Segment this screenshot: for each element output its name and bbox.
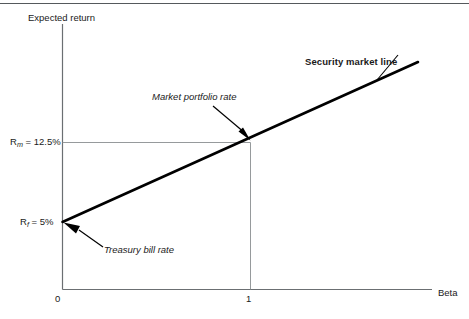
treasury-bill-arrow-head	[64, 223, 81, 234]
market-portfolio-rate-annotation: Market portfolio rate	[152, 92, 236, 102]
treasury-bill-rate-annotation: Treasury bill rate	[104, 245, 174, 255]
security-market-line-figure: Expected return Beta 0 1 Rm = 12.5% Rf =…	[0, 0, 469, 319]
y-tick-label-rf: Rf = 5%	[20, 217, 53, 228]
security-market-line	[63, 62, 419, 222]
treasury-bill-arrow-shaft	[79, 230, 103, 247]
y-tick-label-rm: Rm = 12.5%	[10, 137, 61, 148]
security-market-line-label: Security market line	[305, 57, 397, 67]
x-tick-label-1: 1	[246, 294, 251, 304]
y-axis-label: Expected return	[28, 13, 95, 23]
rf-value: = 5%	[29, 216, 54, 227]
x-tick-label-0: 0	[55, 294, 60, 304]
rm-value: = 12.5%	[23, 136, 61, 147]
rf-symbol: R	[20, 216, 27, 227]
x-axis-label: Beta	[438, 288, 458, 298]
rm-symbol: R	[10, 136, 17, 147]
chart-canvas	[0, 0, 469, 319]
market-portfolio-arrow-shaft	[213, 106, 245, 133]
